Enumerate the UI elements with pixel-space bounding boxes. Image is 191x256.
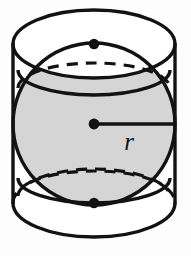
radius-label: r <box>124 128 134 155</box>
bottom-tangent-point-marker <box>89 198 99 208</box>
sphere-center-point-marker <box>89 119 100 130</box>
sphere-cylinder-diagram: r <box>0 0 191 256</box>
geometry-figure: r <box>0 0 191 256</box>
top-tangent-point-marker <box>89 39 99 49</box>
